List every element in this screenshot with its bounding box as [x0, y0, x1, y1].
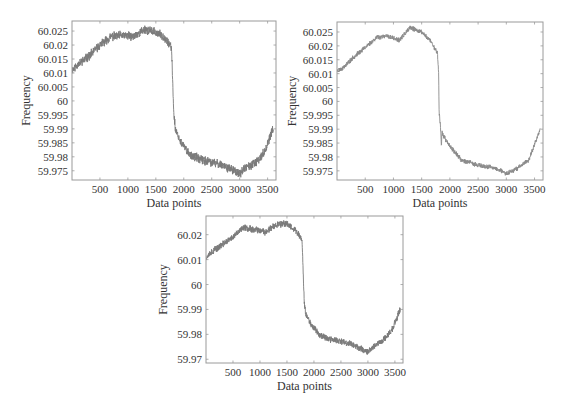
y-tick-label: 60.015 [38, 53, 69, 65]
x-axis-label: Data points [147, 196, 202, 210]
x-tick-label: 1500 [411, 183, 434, 195]
frequency-line [72, 26, 273, 178]
x-tick-label: 500 [92, 183, 109, 195]
y-tick-label: 60 [322, 95, 334, 107]
x-tick-label: 1000 [249, 366, 272, 378]
x-tick-label: 2500 [201, 183, 224, 195]
y-tick-label: 59.97 [177, 353, 202, 365]
x-tick-label: 2000 [303, 366, 326, 378]
plot-frame [206, 216, 403, 363]
y-tick-label: 59.98 [177, 328, 202, 340]
x-tick-label: 2000 [439, 183, 462, 195]
y-tick-label: 59.975 [303, 165, 334, 177]
y-tick-label: 59.995 [303, 109, 334, 121]
x-tick-label: 500 [225, 366, 242, 378]
figure-canvas: 50010001500200025003000350060.02560.0260… [0, 0, 562, 410]
frequency-line [206, 220, 400, 354]
y-tick-label: 59.995 [38, 109, 69, 121]
x-tick-label: 3000 [495, 183, 518, 195]
x-tick-label: 1000 [382, 183, 405, 195]
y-tick-label: 59.985 [303, 137, 334, 149]
y-axis-label: Frequency [285, 76, 299, 127]
x-tick-label: 1500 [145, 183, 168, 195]
y-tick-label: 60.01 [43, 67, 68, 79]
y-tick-label: 60.015 [303, 54, 334, 66]
x-tick-label: 2500 [330, 366, 353, 378]
chart-top-right: 50010001500200025003000350060.02560.0260… [285, 22, 546, 210]
y-tick-label: 60.025 [38, 25, 69, 37]
x-tick-label: 1000 [117, 183, 140, 195]
x-tick-label: 3500 [524, 183, 547, 195]
x-tick-label: 500 [357, 183, 374, 195]
chart-top-left: 50010001500200025003000350060.02560.0260… [19, 21, 279, 210]
y-tick-label: 60.005 [303, 82, 334, 94]
y-tick-label: 60.025 [303, 26, 334, 38]
y-tick-label: 59.99 [43, 123, 68, 135]
y-tick-label: 59.985 [38, 137, 69, 149]
x-tick-label: 3500 [384, 366, 407, 378]
y-tick-label: 60.01 [308, 68, 333, 80]
x-tick-label: 2500 [467, 183, 490, 195]
x-tick-label: 3000 [357, 366, 380, 378]
y-axis-label: Frequency [156, 264, 170, 315]
x-axis-label: Data points [277, 379, 332, 393]
y-tick-label: 60.005 [38, 81, 69, 93]
y-tick-label: 60.02 [177, 229, 202, 241]
x-tick-label: 1500 [276, 366, 299, 378]
y-tick-label: 59.98 [308, 151, 333, 163]
y-tick-label: 60.02 [43, 39, 68, 51]
y-tick-label: 60 [191, 279, 203, 291]
y-tick-label: 59.975 [38, 165, 69, 177]
y-tick-label: 60 [57, 95, 69, 107]
x-axis-label: Data points [413, 196, 468, 210]
x-tick-label: 3000 [229, 183, 252, 195]
y-axis-label: Frequency [19, 75, 33, 126]
y-tick-label: 59.99 [177, 303, 202, 315]
y-tick-label: 59.98 [43, 151, 68, 163]
frequency-line [337, 26, 540, 176]
chart-bottom: 50010001500200025003000350060.0260.01605… [156, 216, 406, 393]
y-tick-label: 60.01 [177, 254, 202, 266]
x-tick-label: 3500 [257, 183, 280, 195]
x-tick-label: 2000 [173, 183, 196, 195]
y-tick-label: 60.02 [308, 40, 333, 52]
y-tick-label: 59.99 [308, 123, 333, 135]
